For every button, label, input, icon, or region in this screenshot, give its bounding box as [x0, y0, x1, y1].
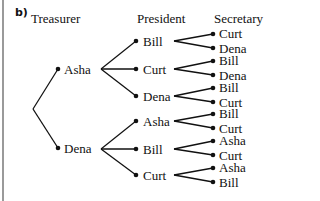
node-president: Dena: [143, 90, 170, 103]
node-president: Asha: [143, 115, 170, 128]
node-treasurer: Asha: [64, 63, 91, 76]
node-secretary: Curt: [219, 27, 242, 40]
node-president: Curt: [143, 169, 166, 182]
node-secretary: Bill: [219, 107, 239, 120]
node-president: Bill: [143, 35, 163, 48]
node-secretary: Bill: [219, 81, 239, 94]
node-secretary: Bill: [219, 176, 239, 189]
node-president: Bill: [143, 143, 163, 156]
node-secretary: Asha: [219, 134, 246, 147]
node-treasurer: Dena: [64, 142, 91, 155]
node-secretary: Asha: [219, 161, 246, 174]
node-secretary: Bill: [219, 54, 239, 67]
node-president: Curt: [143, 63, 166, 76]
